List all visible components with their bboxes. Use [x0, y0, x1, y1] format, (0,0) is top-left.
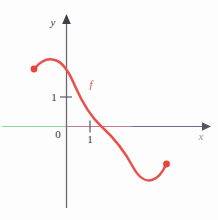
graph-figure: y x 1 0 1 f: [0, 0, 218, 220]
y-tick-label-1: 1: [51, 91, 57, 103]
origin-label: 0: [55, 128, 61, 140]
x-tick-label-1: 1: [87, 133, 93, 145]
y-axis-label: y: [50, 16, 56, 28]
x-axis-label: x: [198, 130, 204, 142]
curve-label-f: f: [89, 78, 94, 90]
function-curve-f: [35, 59, 167, 180]
curve-left-endpoint-dot: [31, 66, 38, 73]
graph-canvas: y x 1 0 1 f: [0, 0, 218, 220]
y-axis-arrow-icon: [62, 14, 71, 24]
curve-right-endpoint-dot: [163, 161, 170, 168]
